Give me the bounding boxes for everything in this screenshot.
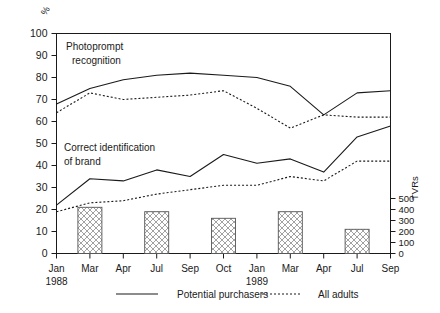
y-axis-left-title: %: [38, 4, 52, 17]
y-tick-label-right: 100: [399, 237, 415, 248]
y-axis-right-title: TVRs: [409, 176, 420, 200]
y-tick-label: 30: [36, 181, 48, 193]
x-tick-label: Jan: [249, 263, 265, 274]
x-tick-sublabel: 1988: [45, 276, 68, 287]
legend-label-all-adults: All adults: [318, 289, 359, 300]
y-tick-label-right: 300: [399, 215, 415, 226]
x-axis-labels: Jan1988MarAprJulSepOctJan1989MarAprJulSe…: [45, 263, 399, 287]
x-tick-label: Jul: [351, 263, 364, 274]
series-line-0: [57, 73, 391, 115]
tvr-bar: [78, 207, 102, 253]
tvr-bar: [212, 218, 236, 253]
x-tick-label: Apr: [116, 263, 132, 274]
x-tick-label: Sep: [181, 263, 199, 274]
x-axis-ticks: [57, 254, 391, 259]
x-tick-label: Jan: [48, 263, 64, 274]
y-axis-left-ticks: 0102030405060708090100: [30, 27, 57, 259]
y-tick-label-right: 400: [399, 204, 415, 215]
y-tick-label: 100: [30, 27, 48, 39]
y-tick-label: 20: [36, 203, 48, 215]
y-tick-label: 60: [36, 115, 48, 127]
tvr-bars: [78, 207, 369, 253]
y-tick-label: 0: [42, 247, 48, 259]
tvr-bar: [145, 212, 169, 254]
y-tick-label-right: 0: [399, 248, 404, 259]
y-axis-right-ticks: 0100200300400500: [391, 193, 415, 259]
y-tick-label-right: 200: [399, 226, 415, 237]
chart-svg: 0102030405060708090100 0100200300400500 …: [0, 0, 440, 313]
x-tick-label: Mar: [81, 263, 99, 274]
annotation-photoprompt-line1: Photoprompt: [66, 41, 123, 52]
x-tick-label: Jul: [150, 263, 163, 274]
tvr-bar: [345, 229, 369, 253]
annotation-brand-line1: Correct identification: [64, 142, 155, 153]
series-line-1: [57, 91, 391, 128]
x-tick-label: Mar: [282, 263, 300, 274]
y-tick-label: 90: [36, 49, 48, 61]
annotation-brand-line2: of brand: [64, 156, 101, 167]
x-tick-label: Oct: [216, 263, 232, 274]
legend-label-potential-purchasers: Potential purchasers: [177, 289, 268, 300]
x-tick-label: Apr: [316, 263, 332, 274]
x-tick-sublabel: 1989: [246, 276, 269, 287]
y-tick-label: 70: [36, 93, 48, 105]
series-line-2: [57, 126, 391, 205]
y-tick-label: 80: [36, 71, 48, 83]
tvr-bar: [278, 212, 302, 254]
y-tick-label: 50: [36, 137, 48, 149]
y-tick-label: 10: [36, 225, 48, 237]
x-tick-label: Sep: [382, 263, 400, 274]
y-tick-label: 40: [36, 159, 48, 171]
series-line-3: [57, 161, 391, 212]
annotation-photoprompt-line2: recognition: [72, 55, 121, 66]
chart-container: 0102030405060708090100 0100200300400500 …: [0, 0, 440, 313]
